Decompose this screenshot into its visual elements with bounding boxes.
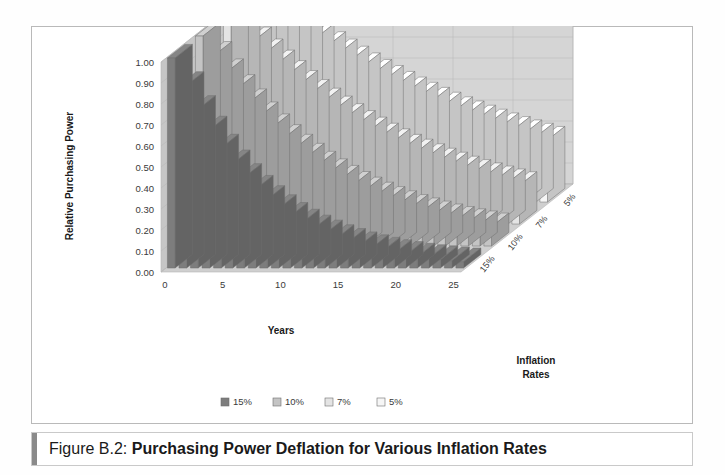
chart-legend: 15%10%7%5% — [221, 396, 403, 407]
y-axis-tick: 0.10 — [136, 246, 155, 257]
legend-swatch-10pct — [273, 398, 281, 406]
x-axis-tick: 25 — [448, 279, 459, 290]
purchasing-power-3d-bar-chart: 1.000.900.800.700.600.500.400.300.200.10… — [31, 26, 693, 424]
y-axis-tick: 1.00 — [136, 57, 155, 68]
x-axis-tick: 15 — [333, 279, 344, 290]
y-axis-tick: 0.60 — [136, 141, 155, 152]
z-axis-tick: 5% — [562, 192, 578, 208]
figure-page: 1.000.900.800.700.600.500.400.300.200.10… — [0, 0, 725, 475]
bar-15pct-year-0 — [167, 44, 192, 268]
legend-swatch-7pct — [325, 398, 333, 406]
x-axis-tick: 5 — [220, 279, 225, 290]
x-axis-tick: 0 — [162, 279, 167, 290]
y-axis-title: Relative Purchasing Power — [64, 112, 75, 240]
y-axis-tick: 0.80 — [136, 99, 155, 110]
y-axis-tick: 0.20 — [136, 225, 155, 236]
y-axis-tick: 0.90 — [136, 78, 155, 89]
caption-figure-title: Purchasing Power Deflation for Various I… — [132, 440, 547, 457]
y-axis-tick: 0.70 — [136, 120, 155, 131]
x-axis-tick: 20 — [390, 279, 401, 290]
z-axis-title-line1: Inflation — [517, 355, 556, 366]
figure-caption-bar: Figure B.2: Purchasing Power Deflation f… — [31, 432, 693, 466]
legend-label-10pct: 10% — [285, 396, 305, 407]
legend-swatch-5pct — [377, 398, 385, 406]
legend-label-15pct: 15% — [233, 396, 253, 407]
legend-swatch-15pct — [221, 398, 229, 406]
z-axis-tick: 7% — [534, 214, 550, 230]
y-axis-tick: 0.50 — [136, 162, 155, 173]
y-axis-tick: 0.00 — [136, 267, 155, 278]
y-axis-tick: 0.30 — [136, 204, 155, 215]
z-axis-title-line2: Rates — [522, 369, 550, 380]
x-axis-title: Years — [268, 325, 295, 336]
legend-label-7pct: 7% — [337, 396, 351, 407]
figure-caption: Figure B.2: Purchasing Power Deflation f… — [37, 440, 547, 458]
legend-label-5pct: 5% — [389, 396, 403, 407]
caption-figure-number: Figure B.2: — [49, 440, 132, 457]
y-axis-tick: 0.40 — [136, 183, 155, 194]
x-axis-tick: 10 — [275, 279, 286, 290]
